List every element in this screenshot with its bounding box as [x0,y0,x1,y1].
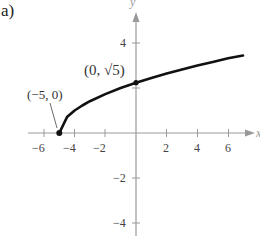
x-axis-arrow-icon [245,130,255,137]
x-tick-label: −2 [93,142,106,154]
x-tick-label: −4 [63,142,76,154]
x-tick-label: 4 [194,142,200,154]
x-tick-label: −6 [32,142,45,154]
endpoint-marker [56,130,62,136]
y-axis-label: y [130,0,135,8]
graph-canvas [0,0,260,236]
y-intercept-annotation: (0, √5) [84,63,125,78]
x-tick-label: 2 [163,142,169,154]
endpoint-leader-line [50,103,57,128]
endpoint-annotation: (−5, 0) [27,88,63,101]
y-tick-label: 4 [120,37,126,49]
y-tick-label: −4 [113,217,126,229]
y-intercept-marker [133,80,138,85]
x-tick-label: 6 [225,142,231,154]
y-axis-arrow-icon [133,12,140,22]
x-axis-label: x [256,127,260,139]
y-tick-label: −2 [113,172,126,184]
